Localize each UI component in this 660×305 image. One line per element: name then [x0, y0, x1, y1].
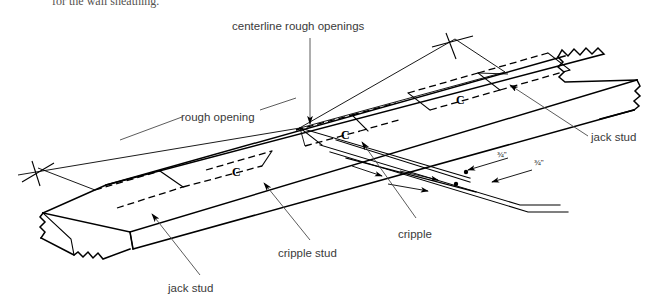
dim-34-arrow-5 [352, 166, 382, 176]
label-jack-stud-right: jack stud [590, 131, 636, 143]
lumber-plate-body [40, 48, 640, 259]
dimension-label-1: ¾" [497, 150, 507, 159]
dim-34-arrow-2 [492, 170, 532, 182]
dash-c-center-b [352, 103, 396, 115]
label-jack-stud-left: jack stud [167, 282, 213, 294]
diagram-page: for the wall sheathing. [0, 0, 660, 305]
leader-rough-opening-left [120, 117, 182, 140]
plate-left-corner-vertical [130, 232, 133, 249]
detail-point-2 [454, 182, 458, 186]
mark-c-left: C [232, 165, 241, 179]
dim-upper-ext-right [455, 39, 505, 72]
detail-proj-1 [320, 145, 560, 205]
plate-top-far-edge [106, 56, 565, 185]
leader-rough-opening-right [260, 98, 296, 110]
leader-cripple [362, 142, 416, 218]
dash-c-left-a [183, 166, 262, 187]
dash-jack-left-a [95, 171, 160, 190]
plate-front-face-lower [130, 110, 634, 249]
dim-upper-tick-a [432, 36, 473, 47]
dash-jack-right-a [500, 70, 570, 90]
dash-jack-left-b [117, 187, 183, 208]
rough-opening-dimension [18, 33, 508, 190]
dimension-label-2: ¾" [534, 158, 544, 167]
dim-upper-line [300, 72, 505, 128]
label-cripple-stud: cripple stud [278, 247, 337, 259]
dim-upper-line-2 [296, 39, 455, 130]
dim-upper-tick-b [446, 33, 456, 59]
leader-jack-stud-left [152, 214, 200, 275]
plate-left-break-edge [40, 213, 45, 238]
plate-top-face-back-break [43, 48, 604, 213]
leader-lines [120, 38, 588, 275]
leader-jack-stud-right [510, 85, 588, 136]
stud-layout-marks [95, 53, 570, 208]
label-centerline-rough-openings: centerline rough openings [232, 20, 365, 32]
plate-layout-diagram: C C C [0, 0, 660, 305]
jack-left-line [160, 171, 183, 187]
plate-left-end-bottom [41, 238, 130, 259]
dash-c-right-a [430, 90, 500, 110]
dash-c-center-a [360, 119, 402, 131]
label-cripple: cripple [398, 228, 432, 240]
detail-point-1 [464, 170, 468, 174]
dim-lower-ext-left [38, 168, 95, 190]
dim-34-arrow-1 [468, 158, 508, 170]
mark-c-right: C [456, 93, 465, 107]
detail-proj-5 [300, 128, 470, 178]
plate-right-break-face [634, 80, 640, 110]
label-rough-opening: rough opening [181, 111, 255, 123]
dim-lower-line [18, 128, 300, 175]
dim-lower-tick-b [32, 161, 40, 186]
